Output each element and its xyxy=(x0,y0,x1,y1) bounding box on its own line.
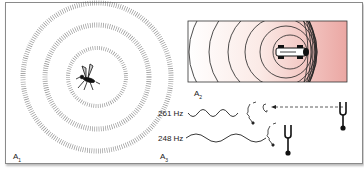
frequency-label-261: 261 Hz xyxy=(158,109,183,118)
diagram-canvas xyxy=(0,0,364,169)
ear-icon xyxy=(263,104,267,112)
listener-face-icon xyxy=(247,102,256,124)
tuning-fork-moving-icon xyxy=(340,102,346,130)
doppler-car-panel xyxy=(68,0,347,169)
listener-face-icon-2 xyxy=(267,123,276,146)
mosquito-sound-rings xyxy=(23,3,171,151)
panel-label-a3: A3 xyxy=(160,152,168,163)
dashed-arrow xyxy=(271,105,343,109)
mosquito-icon xyxy=(76,64,100,90)
tuning-fork-stationary-icon xyxy=(285,125,291,155)
wave-261hz xyxy=(188,110,238,117)
panel-label-a1: A1 xyxy=(13,152,21,163)
wave-248hz xyxy=(186,134,266,142)
panel-label-a2: A2 xyxy=(194,89,202,100)
frequency-label-248: 248 Hz xyxy=(158,134,183,143)
